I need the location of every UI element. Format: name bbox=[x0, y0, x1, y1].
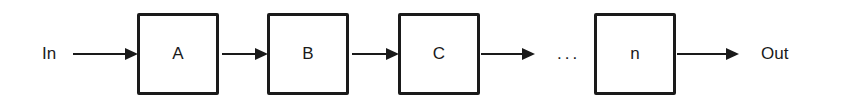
arrow-c-to-ellipsis bbox=[481, 53, 533, 55]
block-c: C bbox=[398, 13, 480, 95]
output-label: Out bbox=[761, 44, 788, 64]
arrow-b-to-c bbox=[352, 53, 397, 55]
arrow-a-to-b bbox=[222, 53, 266, 55]
block-b: B bbox=[267, 13, 349, 95]
block-b-label: B bbox=[302, 44, 313, 64]
block-a: A bbox=[137, 13, 219, 95]
block-n-label: n bbox=[630, 44, 639, 64]
ellipsis: ... bbox=[557, 44, 580, 64]
block-n: n bbox=[594, 13, 676, 95]
block-a-label: A bbox=[172, 44, 183, 64]
input-label: In bbox=[42, 44, 56, 64]
arrow-n-to-out bbox=[677, 53, 737, 55]
block-c-label: C bbox=[433, 44, 445, 64]
arrow-in-to-a bbox=[73, 53, 136, 55]
